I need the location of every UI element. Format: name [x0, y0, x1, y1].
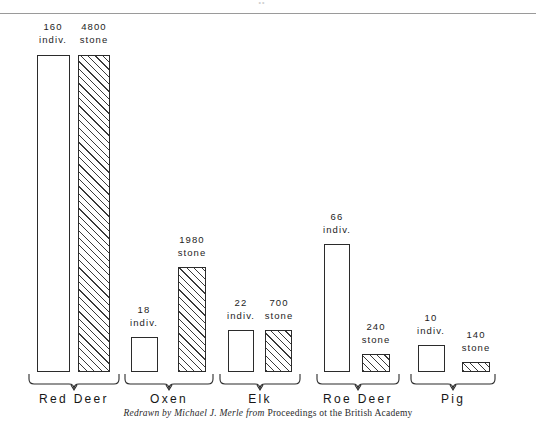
- figure-caption: Redrawn by Michael J. Merle from Proceed…: [0, 407, 536, 419]
- group-brace-oxen: [124, 373, 214, 392]
- bar-unit: indiv.: [306, 223, 368, 236]
- group-label-pig: Pig: [410, 392, 496, 406]
- bar-unit: stone: [248, 309, 310, 322]
- bar-value: 700: [248, 296, 310, 309]
- figure-container: •• 160 indiv. 4800 stone Red Deer 18 ind…: [0, 0, 536, 426]
- bar-pig-stone: [462, 362, 490, 372]
- bar-chart-plot-area: 160 indiv. 4800 stone Red Deer 18 indiv.…: [0, 0, 536, 426]
- bar-value-label: 140 stone: [445, 328, 507, 354]
- bar-oxen-stone: [178, 267, 206, 372]
- group-brace-elk: [219, 373, 301, 392]
- bar-value: 66: [306, 210, 368, 223]
- bar-unit: stone: [345, 333, 407, 346]
- bar-pig-indiv: [418, 345, 445, 372]
- bar-oxen-indiv: [131, 337, 158, 372]
- bar-value: 140: [445, 328, 507, 341]
- bar-unit: stone: [445, 341, 507, 354]
- bar-roe-deer-stone: [362, 354, 390, 372]
- bar-value: 18: [113, 303, 175, 316]
- group-label-red-deer: Red Deer: [24, 392, 124, 406]
- group-label-oxen: Oxen: [124, 392, 214, 406]
- bar-value-label: 700 stone: [248, 296, 310, 322]
- group-brace-red-deer: [28, 373, 120, 392]
- bar-value-label: 18 indiv.: [113, 303, 175, 329]
- bar-value-label: 1980 stone: [161, 233, 223, 259]
- group-label-elk: Elk: [219, 392, 301, 406]
- bar-unit: stone: [161, 246, 223, 259]
- group-label-roe-deer: Roe Deer: [311, 392, 405, 406]
- bar-value: 1980: [161, 233, 223, 246]
- bar-elk-indiv: [228, 330, 254, 372]
- bar-red-deer-stone: [78, 55, 110, 372]
- bar-red-deer-indiv: [37, 55, 70, 372]
- group-brace-pig: [410, 373, 496, 392]
- bar-unit: stone: [63, 33, 125, 46]
- bar-roe-deer-indiv: [324, 244, 350, 372]
- bar-value: 10: [400, 311, 462, 324]
- bar-elk-stone: [265, 330, 292, 372]
- bar-value: 240: [345, 320, 407, 333]
- bar-value: 4800: [63, 20, 125, 33]
- bar-value-label: 66 indiv.: [306, 210, 368, 236]
- caption-redrawn-by: Redrawn by Michael J. Merle from: [123, 408, 264, 418]
- bar-value-label: 240 stone: [345, 320, 407, 346]
- caption-source: Proceedings ot the British Academy: [267, 408, 412, 418]
- bar-value-label: 4800 stone: [63, 20, 125, 46]
- group-brace-roe-deer: [316, 373, 400, 392]
- bar-unit: indiv.: [113, 316, 175, 329]
